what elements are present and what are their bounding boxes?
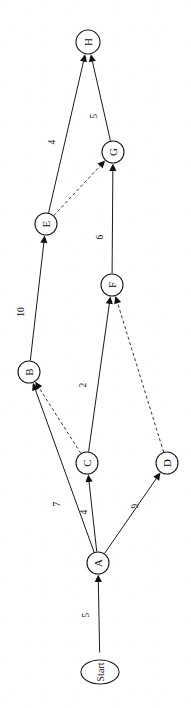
edge-weight-a-d: 9 [130,503,140,508]
node-b[interactable]: B [18,361,40,383]
edge-weight-g-h: 5 [89,113,99,118]
arrowhead-e-h [80,54,87,62]
edge-weight-e-h: 4 [47,139,57,144]
node-label-a: A [92,559,104,567]
arrowhead-c-b [35,382,42,390]
edge-weight-a-b: 7 [52,501,62,506]
node-label-h: H [82,38,94,46]
arrowhead-a-c [86,474,93,482]
edge-c-f [89,302,110,452]
node-h[interactable]: H [76,30,100,54]
node-d[interactable]: D [156,452,178,474]
arrowhead-f-g [109,164,116,172]
diagram-canvas: StartACDBFEGH 5479210645 [0,0,191,708]
node-label-c: C [81,459,93,466]
edge-start-a [98,580,99,652]
node-e[interactable]: E [35,213,57,235]
arrowhead-d-f [114,296,121,304]
node-label-start: Start [95,662,106,681]
node-label-f: F [106,282,118,288]
edge-e-h [49,60,84,213]
edge-a-d [105,477,158,553]
node-c[interactable]: C [76,452,98,474]
node-g[interactable]: G [102,141,124,163]
edge-f-g [112,169,113,273]
node-label-d: D [161,459,173,467]
node-label-e: E [40,220,52,227]
edge-weight-f-g: 6 [95,234,105,239]
arrowhead-c-f [106,296,113,304]
node-a[interactable]: A [87,552,109,574]
edge-b-e [30,241,44,361]
arrowhead-a-d [153,472,160,480]
arrowhead-b-e [40,235,47,243]
edge-d-f [117,301,164,452]
edge-e-g [54,165,102,216]
graph-svg: StartACDBFEGH 5479210645 [0,0,191,708]
edge-weight-c-f: 2 [78,382,88,387]
edge-g-h [92,60,110,141]
node-f[interactable]: F [101,274,123,296]
arrowhead-e-g [97,160,105,168]
edge-weight-a-c: 4 [79,509,89,514]
node-label-g: G [107,148,119,156]
edge-weight-b-e: 10 [16,307,26,317]
arrowhead-start-a [95,575,102,583]
edge-c-b [38,386,81,453]
node-label-b: B [23,368,35,375]
arrowhead-g-h [89,54,96,62]
node-start[interactable]: Start [81,660,119,684]
edge-weight-start-a: 5 [81,612,91,617]
